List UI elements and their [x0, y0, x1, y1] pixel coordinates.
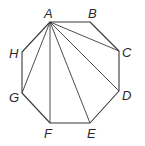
- vertex-label-a: A: [43, 6, 53, 21]
- octagon-diagram: ABCDEFGH: [0, 0, 145, 146]
- diagonal-ac: [50, 22, 119, 51]
- vertex-label-f: F: [44, 126, 53, 141]
- diagonal-ad: [50, 22, 119, 91]
- vertex-label-h: H: [9, 46, 19, 61]
- vertex-label-c: C: [122, 45, 132, 60]
- vertex-label-d: D: [122, 88, 131, 103]
- octagon-outline: [22, 22, 119, 123]
- vertex-label-b: B: [88, 6, 97, 21]
- vertex-label-g: G: [9, 90, 19, 105]
- vertex-label-e: E: [87, 126, 96, 141]
- diagonal-ag: [22, 22, 50, 93]
- diagonal-ae: [50, 22, 90, 123]
